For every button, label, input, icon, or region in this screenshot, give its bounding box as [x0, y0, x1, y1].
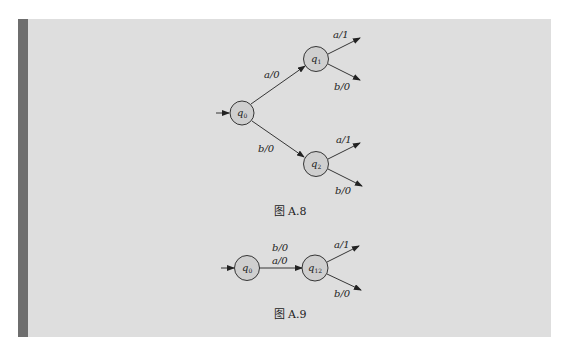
edge-q2-a1	[328, 143, 360, 159]
edge-label-q12-a1: a/1	[334, 239, 350, 250]
state-q2: q2	[304, 152, 329, 177]
edge-q1-a1	[328, 38, 360, 54]
state-q0: q0	[235, 256, 260, 281]
edge-label-q1-a1: a/1	[333, 29, 349, 40]
edge-label-q0-q12-bottom: a/0	[272, 255, 288, 266]
edge-label-q0-q12-top: b/0	[272, 242, 289, 253]
edge-label-q12-b0: b/0	[334, 288, 351, 299]
state-q12: q12	[302, 255, 328, 281]
edge-q1-b0	[328, 64, 360, 80]
figure-a8: a/0 b/0 a/1 b/0 a/1 b/0 q0 q1 q2 图 A.8	[216, 29, 362, 218]
edge-q2-b0	[328, 169, 362, 186]
edge-label-q0-q1: a/0	[264, 69, 280, 80]
figure-caption-a9: 图 A.9	[274, 308, 307, 321]
edge-label-q0-q2: b/0	[258, 143, 275, 154]
edge-label-q1-b0: b/0	[334, 81, 351, 92]
edge-label-q2-b0: b/0	[335, 185, 352, 196]
state-q0: q0	[230, 101, 254, 125]
figure-caption-a8: 图 A.8	[274, 205, 307, 218]
figure-a9: b/0 a/0 a/1 b/0 q0 q12 图 A.9	[221, 239, 361, 321]
state-q1: q1	[304, 47, 329, 72]
edge-label-q2-a1: a/1	[336, 134, 352, 145]
state-diagrams: a/0 b/0 a/1 b/0 a/1 b/0 q0 q1 q2 图 A.8	[0, 0, 566, 354]
